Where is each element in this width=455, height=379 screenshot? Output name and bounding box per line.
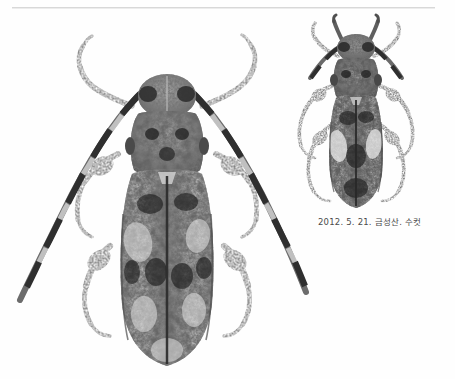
beetle-elytra bbox=[120, 170, 213, 367]
page-rule bbox=[12, 7, 435, 8]
specimen-caption: 2012. 5. 21. 금성산. 수컷 bbox=[318, 216, 428, 228]
beetle-elytra bbox=[327, 95, 384, 208]
specimen-large-beetle bbox=[6, 14, 306, 374]
beetle-icon bbox=[6, 14, 306, 374]
beetle-pronotum bbox=[330, 58, 382, 100]
specimen-plate: 2012. 5. 21. 금성산. 수컷 bbox=[0, 0, 455, 379]
beetle-icon bbox=[286, 14, 426, 214]
specimen-small-beetle bbox=[286, 14, 426, 214]
beetle-pronotum bbox=[125, 111, 209, 176]
